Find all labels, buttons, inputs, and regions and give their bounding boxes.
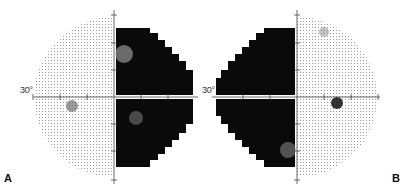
visual-field-panel-b: 30° B (204, 0, 408, 192)
sparing-spot-upper-a (115, 45, 133, 63)
blind-spot-a (66, 100, 78, 112)
visual-field-plot-a (0, 0, 204, 192)
axis-label-30-deg-b: 30° (202, 85, 215, 95)
visual-field-plot-b (204, 0, 408, 192)
visual-field-panel-a: 30° A (0, 0, 204, 192)
sparing-spot-lower-b (280, 142, 296, 158)
artifact-spot-upper-b (319, 27, 329, 37)
panel-label-a: A (4, 172, 12, 184)
panel-label-b: B (392, 172, 400, 184)
sparing-spot-lower-a (129, 111, 143, 125)
axis-label-30-deg-a: 30° (20, 85, 33, 95)
blind-spot-b (331, 97, 343, 109)
